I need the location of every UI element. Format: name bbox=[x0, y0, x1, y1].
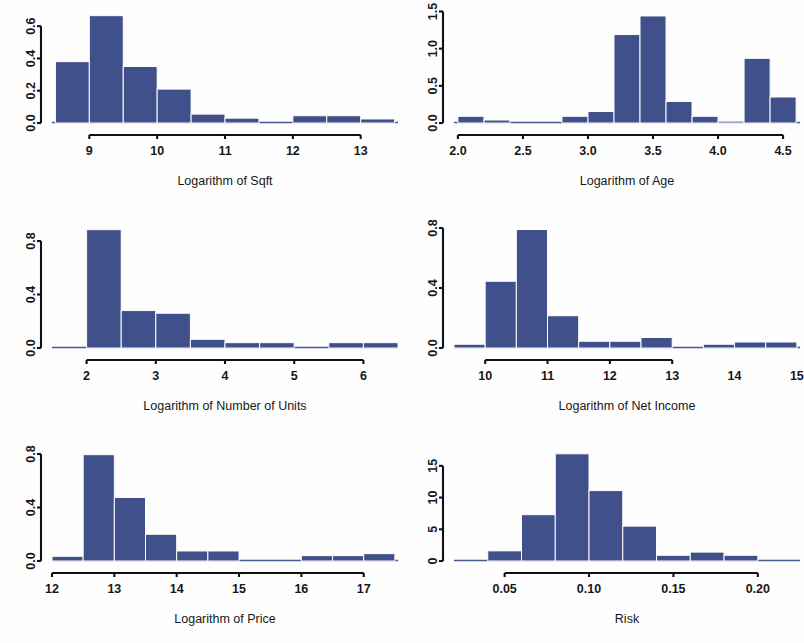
y-tick-label: 0.0 bbox=[24, 114, 38, 131]
histogram-bar bbox=[516, 230, 547, 349]
x-axis-title: Risk bbox=[615, 612, 640, 626]
x-tick-label: 9 bbox=[86, 144, 93, 158]
y-tick-label: 0.8 bbox=[24, 445, 38, 462]
x-tick-label: 14 bbox=[170, 582, 184, 596]
histogram-bar bbox=[329, 343, 364, 348]
histogram-log-age: 0.00.51.01.52.02.53.03.54.04.5Logarithm … bbox=[402, 0, 804, 215]
x-tick-label: 0.20 bbox=[746, 582, 770, 596]
y-tick-label: 0.4 bbox=[24, 50, 38, 67]
x-tick-label: 14 bbox=[728, 369, 742, 383]
histogram-bar bbox=[225, 118, 259, 123]
histogram-risk: 0510150.050.100.150.20Risk bbox=[402, 440, 804, 643]
y-tick-label: 0.0 bbox=[24, 552, 38, 569]
y-tick-label: 0.4 bbox=[24, 499, 38, 516]
y-tick-label: 0.6 bbox=[24, 17, 38, 34]
y-tick-label: 0.0 bbox=[426, 114, 440, 131]
histogram-bar bbox=[562, 116, 588, 123]
histogram-bar bbox=[191, 114, 225, 123]
histogram-bar bbox=[157, 89, 191, 123]
histogram-bar bbox=[610, 341, 641, 348]
x-tick-label: 2.0 bbox=[449, 144, 466, 158]
panel-log-age: 0.00.51.01.52.02.53.03.54.04.5Logarithm … bbox=[402, 0, 804, 215]
x-tick-label: 0.05 bbox=[492, 582, 516, 596]
y-tick-label: 0.5 bbox=[426, 77, 440, 94]
x-tick-label: 0.10 bbox=[577, 582, 601, 596]
histogram-bar bbox=[55, 62, 89, 123]
y-tick-label: 1.5 bbox=[426, 3, 440, 20]
histogram-bar bbox=[735, 342, 766, 348]
x-tick-label: 3.0 bbox=[579, 144, 596, 158]
histogram-panel-grid: 0.00.20.40.6910111213Logarithm of Sqft 0… bbox=[0, 0, 804, 643]
histogram-bar bbox=[555, 454, 589, 561]
x-tick-label: 12 bbox=[286, 144, 300, 158]
x-tick-label: 0.15 bbox=[661, 582, 685, 596]
y-tick-label: 0.8 bbox=[24, 232, 38, 249]
x-axis-title: Logarithm of Price bbox=[174, 612, 275, 626]
histogram-bar bbox=[146, 534, 177, 561]
histogram-bar bbox=[485, 281, 516, 348]
histogram-bar bbox=[548, 316, 579, 348]
histogram-log-net-income: 0.00.40.8101112131415Logarithm of Net In… bbox=[402, 215, 804, 440]
histogram-bar bbox=[301, 556, 332, 561]
panel-log-units: 0.00.40.823456Logarithm of Number of Uni… bbox=[0, 215, 402, 440]
x-tick-label: 15 bbox=[232, 582, 246, 596]
histogram-bar bbox=[190, 339, 225, 348]
histogram-bar bbox=[690, 552, 724, 561]
histogram-bar bbox=[724, 555, 758, 561]
histogram-bar bbox=[177, 551, 208, 561]
histogram-bar bbox=[123, 67, 157, 124]
x-tick-label: 10 bbox=[478, 369, 492, 383]
x-tick-label: 13 bbox=[665, 369, 679, 383]
x-axis-title: Logarithm of Sqft bbox=[177, 174, 273, 188]
panel-risk: 0510150.050.100.150.20Risk bbox=[402, 440, 804, 643]
histogram-bar bbox=[484, 120, 510, 123]
x-tick-label: 2 bbox=[83, 369, 90, 383]
histogram-bar bbox=[333, 556, 364, 561]
histogram-bar bbox=[327, 116, 361, 123]
y-tick-label: 0.4 bbox=[24, 286, 38, 303]
x-tick-label: 11 bbox=[218, 144, 231, 158]
histogram-bar bbox=[589, 491, 623, 561]
x-tick-label: 4.5 bbox=[774, 144, 791, 158]
histogram-bar bbox=[260, 343, 295, 348]
histogram-bar bbox=[52, 556, 83, 561]
x-tick-label: 3.5 bbox=[644, 144, 661, 158]
histogram-bar bbox=[293, 116, 327, 123]
y-tick-label: 15 bbox=[426, 459, 440, 473]
x-tick-label: 4 bbox=[222, 369, 229, 383]
histogram-bar bbox=[766, 342, 797, 348]
x-tick-label: 10 bbox=[150, 144, 164, 158]
y-tick-label: 10 bbox=[426, 491, 440, 505]
histogram-bar bbox=[744, 58, 770, 123]
x-tick-label: 16 bbox=[294, 582, 308, 596]
histogram-bar bbox=[640, 16, 666, 123]
y-tick-label: 0.8 bbox=[426, 219, 440, 236]
x-tick-label: 5 bbox=[291, 369, 298, 383]
y-tick-label: 1.0 bbox=[426, 40, 440, 57]
histogram-bar bbox=[89, 16, 123, 123]
histogram-bar bbox=[692, 116, 718, 123]
histogram-bar bbox=[156, 313, 191, 348]
histogram-bar bbox=[770, 97, 796, 123]
histogram-bar bbox=[363, 343, 398, 348]
histogram-bar bbox=[364, 554, 395, 561]
x-tick-label: 4.0 bbox=[709, 144, 726, 158]
histogram-log-units: 0.00.40.823456Logarithm of Number of Uni… bbox=[0, 215, 402, 440]
x-tick-label: 11 bbox=[541, 369, 554, 383]
histogram-bar bbox=[361, 119, 395, 123]
x-axis-title: Logarithm of Number of Units bbox=[143, 399, 306, 413]
histogram-bar bbox=[641, 338, 672, 349]
x-axis-title: Logarithm of Age bbox=[580, 174, 675, 188]
histogram-bar bbox=[657, 555, 691, 561]
y-tick-label: 0.4 bbox=[426, 279, 440, 296]
x-tick-label: 2.5 bbox=[514, 144, 531, 158]
histogram-bar bbox=[458, 116, 484, 123]
histogram-bar bbox=[225, 343, 260, 348]
histogram-bar bbox=[588, 111, 614, 123]
x-axis-title: Logarithm of Net Income bbox=[559, 399, 696, 413]
y-tick-label: 0.0 bbox=[24, 339, 38, 356]
x-tick-label: 15 bbox=[790, 369, 804, 383]
panel-log-sqft: 0.00.20.40.6910111213Logarithm of Sqft bbox=[0, 0, 402, 215]
histogram-bar bbox=[454, 344, 485, 348]
y-tick-label: 0.0 bbox=[426, 339, 440, 356]
